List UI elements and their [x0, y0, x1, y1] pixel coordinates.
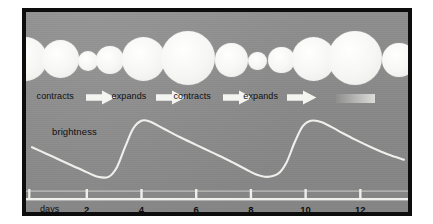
days-axis-label: days — [40, 204, 59, 214]
axis-tick-label: 4 — [139, 204, 144, 215]
axis-tick — [250, 189, 252, 198]
axis-upper-rule — [26, 191, 408, 192]
axis-tick-label: 10 — [300, 204, 311, 215]
axis-tick — [140, 189, 142, 198]
figure-frame: contractsexpandscontractsexpands brightn… — [22, 8, 412, 216]
time-axis — [26, 12, 408, 212]
brightness-axis-label: brightness — [52, 126, 97, 137]
axis-tick — [359, 189, 361, 198]
axis-tick-label: 12 — [355, 204, 366, 215]
axis-tick-label: 6 — [193, 204, 198, 215]
axis-origin-tick — [28, 189, 30, 198]
axis-tick-label: 2 — [84, 204, 89, 215]
axis-tick — [195, 189, 197, 198]
axis-tick-label: 8 — [248, 204, 253, 215]
axis-tick — [86, 189, 88, 198]
axis-tick — [304, 189, 306, 198]
axis-baseline — [26, 198, 408, 200]
